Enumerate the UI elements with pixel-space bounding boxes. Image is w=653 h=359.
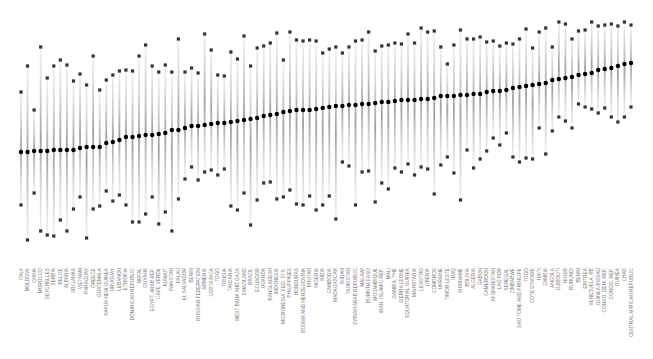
upper-marker (210, 48, 213, 51)
upper-marker (98, 88, 101, 91)
median-dot (170, 128, 174, 132)
range-line (401, 44, 403, 172)
lower-marker (26, 238, 29, 241)
x-axis-label: GUINEA-BISSAU (596, 268, 601, 305)
range-line (79, 74, 81, 197)
upper-marker (472, 37, 475, 40)
x-axis-label: GUINEA (615, 267, 620, 286)
upper-marker (33, 108, 36, 111)
x-axis-label: ARMENIA (202, 267, 207, 289)
x-axis-label: CENTRAL AFRICAN REPUBLIC (629, 267, 634, 337)
x-axis-label: UGANDA (261, 267, 266, 288)
upper-marker (144, 43, 147, 46)
upper-marker (111, 73, 114, 76)
upper-marker (629, 23, 632, 26)
upper-marker (131, 69, 134, 72)
upper-marker (446, 62, 449, 65)
median-dot (150, 133, 154, 137)
upper-marker (105, 78, 108, 81)
x-axis-label: RUSSIAN FEDERATION (196, 268, 201, 321)
upper-marker (46, 76, 49, 79)
range-line (571, 39, 573, 128)
median-dot (544, 81, 548, 85)
range-line (210, 50, 212, 170)
upper-marker (157, 70, 160, 73)
upper-marker (65, 63, 68, 66)
upper-marker (288, 30, 291, 33)
range-line (158, 72, 160, 224)
upper-marker (485, 40, 488, 43)
upper-marker (492, 39, 495, 42)
x-axis-label: VENEZUELA, RB (589, 268, 594, 306)
lower-marker (242, 191, 245, 194)
lower-marker (341, 160, 344, 163)
range-line (387, 45, 389, 189)
lower-marker (511, 155, 514, 158)
x-axis-label: EQUATORIAL GUINEA (405, 267, 410, 317)
median-dot (458, 93, 462, 97)
upper-marker (59, 58, 62, 61)
x-axis-label: TUNISIA (222, 267, 227, 287)
upper-marker (236, 57, 239, 60)
upper-marker (223, 74, 226, 77)
median-dot (524, 84, 528, 88)
upper-marker (328, 47, 331, 50)
upper-marker (479, 35, 482, 38)
upper-marker (610, 22, 613, 25)
upper-marker (197, 71, 200, 74)
lower-marker (426, 167, 429, 170)
median-dot (537, 82, 541, 86)
upper-marker (603, 23, 606, 26)
lower-marker (72, 207, 75, 210)
range-line (545, 28, 547, 154)
lower-marker (610, 115, 613, 118)
x-axis-label: IRAQ (451, 268, 456, 280)
range-line (118, 71, 120, 195)
median-dot (242, 118, 246, 122)
median-dot (314, 107, 318, 111)
range-line (269, 43, 271, 182)
lower-marker (544, 152, 547, 155)
range-line (414, 43, 416, 175)
upper-marker (570, 37, 573, 40)
range-line (604, 25, 606, 108)
upper-marker (374, 49, 377, 52)
lower-marker (570, 126, 573, 129)
lower-marker (52, 234, 55, 237)
median-dot (104, 141, 108, 145)
upper-marker (315, 39, 318, 42)
upper-marker (551, 45, 554, 48)
lower-marker (472, 166, 475, 169)
upper-marker (557, 20, 560, 23)
range-line (473, 39, 475, 168)
median-dot (419, 97, 423, 101)
lower-marker (118, 193, 121, 196)
x-axis-label: MICRONESIA, FED. STS. (281, 268, 286, 324)
median-dot (189, 124, 193, 128)
median-dot (340, 104, 344, 108)
x-axis-label: SENEGAL (504, 268, 509, 291)
median-dot (111, 140, 115, 144)
range-line (315, 41, 317, 210)
lower-marker (616, 120, 619, 123)
lower-marker (629, 105, 632, 108)
median-dot (137, 134, 141, 138)
range-line (368, 32, 370, 171)
median-dot (478, 92, 482, 96)
x-axis-label: AFGHANISTAN (491, 268, 496, 301)
median-dot (576, 73, 580, 77)
x-axis-label: PAPUA NEW GUINEA (104, 267, 109, 315)
median-dot (235, 119, 239, 123)
x-axis-label: URUGUAY (110, 268, 115, 291)
range-line (322, 53, 324, 205)
upper-marker (19, 90, 22, 93)
x-axis-labels: ITALYMOLDOVACHINAMOROCCOSEYCHELLESSERBIA… (19, 267, 634, 337)
upper-marker (183, 70, 186, 73)
upper-marker (26, 64, 29, 67)
upper-marker (229, 50, 232, 53)
lower-marker (413, 173, 416, 176)
x-axis-label: CONGO, REP. (609, 268, 614, 299)
x-axis-label: ZAMBIA (543, 267, 548, 286)
median-dot (176, 128, 180, 132)
median-dot (557, 77, 561, 81)
